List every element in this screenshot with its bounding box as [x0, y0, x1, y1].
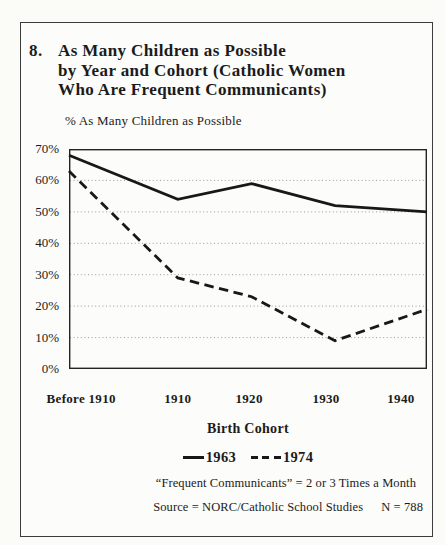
y-tick-label: 60% — [21, 172, 59, 188]
y-tick-label: 70% — [21, 141, 59, 157]
dashed-line-sample-icon — [251, 456, 282, 459]
x-tick-label: 1910 — [164, 391, 191, 407]
footnote-source-row: Source = NORC/Catholic School Studies N … — [153, 500, 423, 515]
x-tick-label: 1920 — [235, 391, 262, 407]
footnote-definition: “Frequent Communicants” = 2 or 3 Times a… — [156, 476, 416, 491]
series-line-1963 — [69, 155, 427, 212]
y-tick-label: 0% — [21, 361, 59, 377]
x-tick-label: 1930 — [312, 391, 339, 407]
legend: 1963 1974 — [69, 449, 427, 466]
y-tick-label: 40% — [21, 235, 59, 251]
solid-line-sample-icon — [183, 456, 204, 459]
sample-size: N = 788 — [381, 500, 423, 515]
x-tick-label: Before 1910 — [47, 391, 116, 407]
plot-area — [69, 149, 427, 369]
figure-title-line: Who Are Frequent Communicants) — [58, 80, 346, 100]
y-axis-title: % As Many Children as Possible — [65, 113, 242, 129]
figure-title-line: As Many Children as Possible — [58, 41, 346, 61]
legend-entry-1963: 1963 — [183, 449, 236, 466]
legend-label-1974: 1974 — [283, 449, 313, 466]
y-tick-label: 20% — [21, 298, 59, 314]
y-tick-label: 50% — [21, 204, 59, 220]
plot-svg — [69, 149, 427, 369]
y-tick-label: 30% — [21, 267, 59, 283]
x-axis-title: Birth Cohort — [69, 421, 427, 437]
page-background: 8. As Many Children as Possible by Year … — [0, 0, 445, 545]
legend-entry-1974: 1974 — [251, 449, 313, 466]
series-line-1974 — [69, 171, 427, 341]
y-tick-label: 10% — [21, 330, 59, 346]
figure-number: 8. — [29, 41, 43, 61]
figure-box: 8. As Many Children as Possible by Year … — [20, 22, 433, 537]
plot-border — [70, 150, 427, 369]
footnote-source: Source = NORC/Catholic School Studies — [153, 500, 363, 515]
x-tick-label: 1940 — [387, 391, 414, 407]
legend-label-1963: 1963 — [206, 449, 236, 466]
figure-title: As Many Children as Possible by Year and… — [58, 41, 346, 100]
figure-title-line: by Year and Cohort (Catholic Women — [58, 61, 346, 81]
